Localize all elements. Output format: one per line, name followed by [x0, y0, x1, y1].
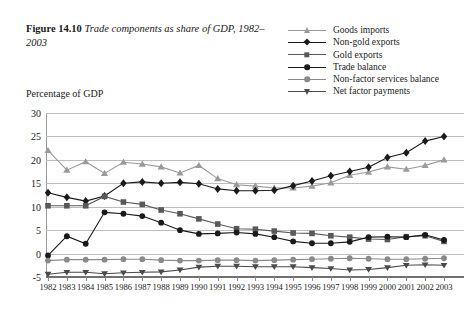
circle-icon — [304, 77, 310, 83]
diamond-icon — [309, 177, 315, 185]
square-icon — [121, 199, 127, 205]
diamond-icon — [233, 187, 239, 195]
x-axis-tick-label: 1982 — [39, 282, 56, 292]
y-axis-tick-label: 5 — [36, 225, 41, 236]
legend-marker — [305, 40, 310, 45]
x-axis-tick-label: 1986 — [115, 282, 132, 292]
diamond-icon — [45, 189, 51, 197]
y-axis-tick-label: 0 — [36, 248, 41, 259]
series-4 — [45, 209, 447, 258]
series-line — [48, 212, 444, 255]
triangle-up-icon — [120, 159, 127, 165]
circle-icon — [64, 233, 70, 239]
circle-icon — [177, 227, 183, 233]
diamond-icon — [64, 193, 70, 201]
figure-number: Figure 14.10 — [26, 23, 82, 34]
circle-icon — [121, 211, 127, 217]
x-axis-tick — [331, 277, 332, 281]
x-axis-tick — [142, 277, 143, 281]
diamond-icon — [422, 137, 428, 145]
triangle-down-icon — [304, 89, 310, 95]
series-line — [48, 265, 444, 274]
circle-icon — [385, 256, 391, 262]
x-axis-tick-label: 2003 — [435, 282, 452, 292]
x-axis-tick — [387, 277, 388, 281]
diamond-icon — [384, 154, 390, 162]
legend-marker — [304, 64, 310, 70]
triangle-down-icon — [101, 271, 108, 277]
x-axis-tick-label: 1989 — [171, 282, 188, 292]
circle-icon — [196, 258, 202, 264]
diamond-icon — [403, 149, 409, 157]
x-axis-tick-label: 1999 — [360, 282, 377, 292]
triangle-up-icon — [195, 162, 202, 168]
diamond-icon — [120, 179, 126, 187]
circle-icon — [441, 237, 447, 243]
circle-icon — [366, 234, 372, 240]
legend-item-label: Trade balance — [333, 61, 386, 73]
square-icon — [64, 203, 70, 209]
circle-icon — [234, 257, 240, 263]
legend-item-4: Trade balance — [288, 61, 439, 73]
x-axis-tick — [444, 277, 445, 281]
circle-icon — [304, 64, 310, 70]
circle-icon — [158, 257, 164, 263]
legend-key — [288, 61, 326, 73]
legend-marker — [304, 27, 310, 33]
legend-marker — [304, 77, 310, 83]
diamond-icon — [441, 132, 447, 140]
y-axis-tick-label: 15 — [31, 178, 41, 189]
circle-icon — [328, 240, 334, 246]
x-axis-tick — [255, 277, 256, 281]
legend-marker — [304, 52, 309, 57]
square-icon — [177, 211, 183, 217]
circle-icon — [441, 255, 447, 261]
diamond-icon — [139, 178, 145, 186]
diamond-icon — [196, 180, 202, 188]
circle-icon — [121, 256, 127, 262]
legend-item-label: Goods imports — [333, 24, 389, 36]
legend-marker — [304, 89, 310, 95]
x-axis-tick — [105, 277, 106, 281]
circle-icon — [385, 234, 391, 240]
circle-icon — [102, 209, 108, 215]
series-line — [48, 196, 444, 241]
series-canvas — [46, 113, 464, 277]
x-axis-tick-label: 1983 — [58, 282, 75, 292]
triangle-up-icon — [384, 163, 391, 169]
x-axis-tick — [218, 277, 219, 281]
triangle-up-icon — [44, 147, 51, 153]
circle-icon — [347, 255, 353, 261]
x-axis-tick — [180, 277, 181, 281]
legend-key — [288, 49, 326, 61]
x-axis-tick-label: 1987 — [134, 282, 151, 292]
legend-item-2: Non-gold exports — [288, 36, 439, 48]
diamond-icon — [158, 179, 164, 187]
series-1 — [44, 147, 447, 191]
square-icon — [215, 221, 221, 227]
circle-icon — [271, 257, 277, 263]
legend-key — [288, 86, 326, 98]
diamond-icon — [303, 39, 310, 46]
circle-icon — [290, 238, 296, 244]
x-axis-tick — [86, 277, 87, 281]
legend-key — [288, 73, 326, 85]
diamond-icon — [347, 168, 353, 176]
circle-icon — [309, 240, 315, 246]
triangle-down-icon — [45, 272, 52, 278]
y-axis-tick-label: 25 — [31, 131, 41, 142]
x-axis-tick — [161, 277, 162, 281]
square-icon — [102, 194, 108, 200]
circle-icon — [253, 231, 259, 237]
square-icon — [309, 231, 315, 237]
diamond-icon — [215, 185, 221, 193]
x-axis-tick-label: 1991 — [209, 282, 226, 292]
figure-page: Figure 14.10 Trade components as share o… — [0, 0, 471, 320]
circle-icon — [253, 258, 259, 264]
x-axis-tick — [274, 277, 275, 281]
square-icon — [45, 203, 51, 209]
x-axis-tick — [199, 277, 200, 281]
circle-icon — [347, 239, 353, 245]
circle-icon — [234, 230, 240, 236]
square-icon — [196, 216, 202, 222]
